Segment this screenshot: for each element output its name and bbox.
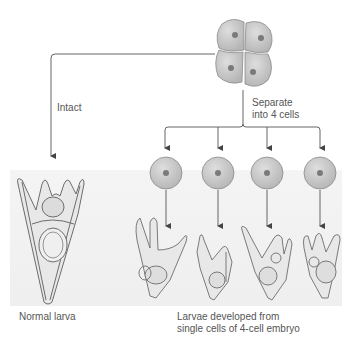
larvae-caption-line2: single cells of 4-cell embryo <box>177 323 300 335</box>
diagram: Intact Separate into 4 cells Normal larv… <box>0 0 352 343</box>
diagram-graphics <box>0 0 352 343</box>
single-cell-4 <box>304 157 336 189</box>
larva-from-cell-3 <box>242 226 293 300</box>
single-cell-3 <box>251 157 283 189</box>
intact-label: Intact <box>57 102 81 114</box>
larva-from-cell-2 <box>197 235 232 300</box>
embryo-cell-4 <box>245 52 272 86</box>
single-cells <box>150 157 336 189</box>
separate-label: Separate into 4 cells <box>252 97 299 121</box>
separate-label-line1: Separate <box>252 97 299 109</box>
normal-larva <box>18 179 85 304</box>
larvae-caption-line1: Larvae developed from <box>177 311 300 323</box>
separate-label-line2: into 4 cells <box>252 109 299 121</box>
single-cell-1 <box>150 157 182 189</box>
larvae-caption: Larvae developed from single cells of 4-… <box>177 311 300 335</box>
larva-from-cell-1 <box>136 218 187 298</box>
single-cell-2 <box>202 157 234 189</box>
normal-larva-caption: Normal larva <box>19 311 76 323</box>
four-cell-embryo <box>216 19 272 86</box>
larva-from-cell-4 <box>304 233 341 298</box>
embryo-cell-1 <box>217 19 244 51</box>
